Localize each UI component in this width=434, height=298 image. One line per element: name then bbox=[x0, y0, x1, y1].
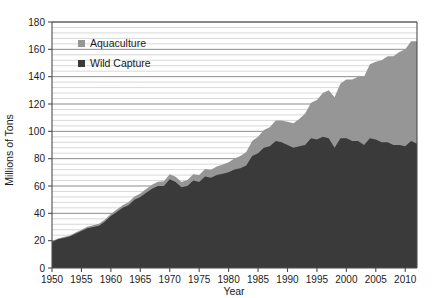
x-tick-label: 2005 bbox=[365, 274, 388, 285]
y-tick-label: 80 bbox=[34, 153, 46, 164]
x-tick-label: 1980 bbox=[217, 274, 240, 285]
y-tick-label: 0 bbox=[39, 263, 45, 274]
y-tick-label: 40 bbox=[34, 208, 46, 219]
x-tick-label: 1950 bbox=[41, 274, 64, 285]
legend-label: Aquaculture bbox=[90, 37, 146, 49]
y-tick-label: 160 bbox=[28, 44, 45, 55]
y-tick-label: 20 bbox=[34, 235, 46, 246]
x-tick-label: 1960 bbox=[100, 274, 123, 285]
y-tick-label: 60 bbox=[34, 181, 46, 192]
chart-page: 020406080100120140160180 195019551960196… bbox=[0, 0, 434, 298]
x-tick-label: 1955 bbox=[70, 274, 93, 285]
legend-label: Wild Capture bbox=[90, 57, 151, 69]
y-axis-title: Millions of Tons bbox=[3, 114, 15, 186]
x-tick-label: 1985 bbox=[247, 274, 270, 285]
x-tick-label: 2000 bbox=[335, 274, 358, 285]
x-tick-label: 1965 bbox=[129, 274, 152, 285]
legend-swatch bbox=[78, 60, 85, 67]
x-axis-title: Year bbox=[223, 285, 245, 297]
y-tick-label: 180 bbox=[28, 17, 45, 28]
y-tick-label: 120 bbox=[28, 99, 45, 110]
x-tick-label: 2010 bbox=[394, 274, 417, 285]
legend-swatch bbox=[78, 40, 85, 47]
x-tick-label: 1990 bbox=[276, 274, 299, 285]
x-tick-label: 1975 bbox=[188, 274, 211, 285]
x-tick-label: 1995 bbox=[306, 274, 329, 285]
fisheries-production-area-chart: 020406080100120140160180 195019551960196… bbox=[0, 0, 434, 298]
x-tick-label: 1970 bbox=[159, 274, 182, 285]
y-tick-label: 140 bbox=[28, 71, 45, 82]
y-tick-label: 100 bbox=[28, 126, 45, 137]
